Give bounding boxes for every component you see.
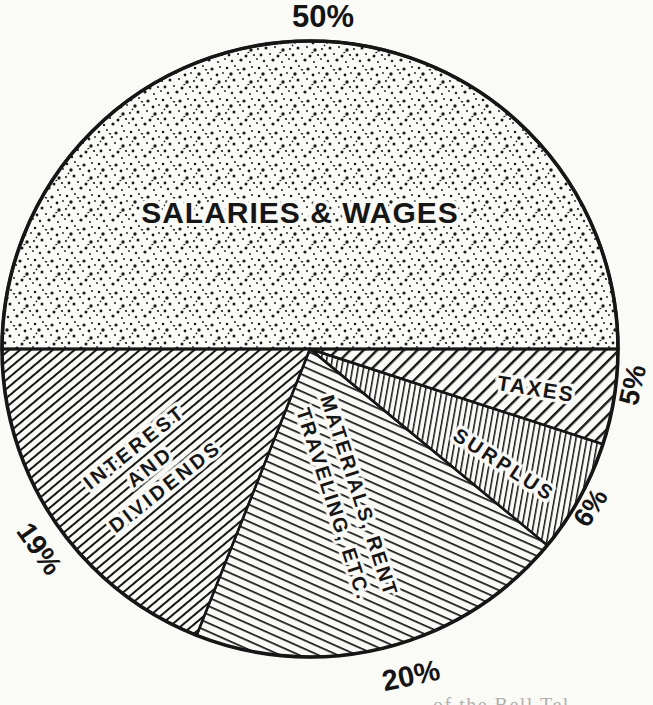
caption-fragment: of the Bell Tel: [433, 694, 570, 705]
scanned-pie-chart-figure: SALARIES & WAGES TAXES SURPLUS MATERIALS…: [0, 0, 653, 705]
slice-label-salaries-wages: SALARIES & WAGES: [141, 194, 459, 232]
pie-chart-svg: [0, 0, 653, 705]
pct-label-salaries: 50%: [292, 0, 354, 35]
